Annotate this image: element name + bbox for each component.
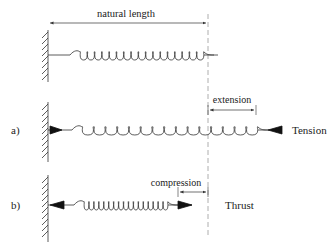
natural-length-dimension: natural length (50, 8, 206, 23)
tension-label: Tension (292, 124, 327, 136)
case-b-label: b) (11, 199, 21, 212)
spring-extended (48, 126, 282, 135)
spring-compressed (48, 201, 192, 210)
case-a-label: a) (11, 124, 20, 137)
compression-dimension: compression (151, 177, 208, 197)
force-arrow-left-icon (50, 201, 64, 209)
wall-a (42, 102, 48, 162)
force-arrow-right-icon (178, 201, 192, 209)
extension-dimension: extension (208, 94, 256, 115)
wall-b (42, 175, 48, 242)
force-arrow-right-icon (50, 126, 62, 134)
spring-natural (48, 51, 218, 60)
spring-diagram: natural length a) extension Tension b) (0, 0, 334, 249)
force-arrow-left-icon (268, 126, 282, 134)
natural-length-label: natural length (97, 8, 156, 19)
compression-label: compression (151, 177, 202, 188)
wall-top (42, 30, 48, 82)
thrust-label: Thrust (225, 199, 254, 211)
extension-label: extension (213, 94, 251, 105)
